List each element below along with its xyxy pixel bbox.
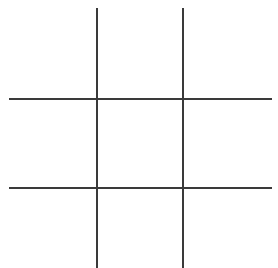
cell-1-2[interactable]: [184, 100, 272, 187]
cell-0-0[interactable]: [9, 8, 96, 98]
cell-1-0[interactable]: [9, 100, 96, 187]
cell-1-1[interactable]: [98, 100, 182, 187]
cell-2-1[interactable]: [98, 189, 182, 268]
cell-2-2[interactable]: [184, 189, 272, 268]
tic-tac-toe-board: [0, 0, 278, 268]
cell-0-1[interactable]: [98, 8, 182, 98]
cell-2-0[interactable]: [9, 189, 96, 268]
cell-0-2[interactable]: [184, 8, 272, 98]
